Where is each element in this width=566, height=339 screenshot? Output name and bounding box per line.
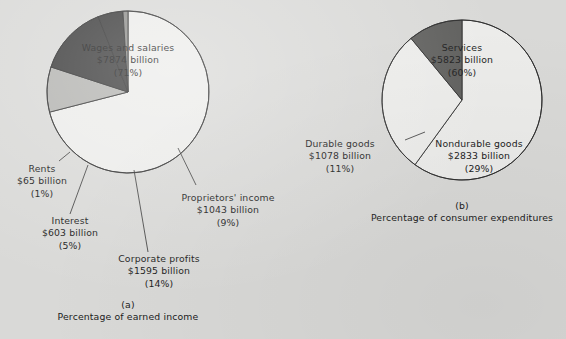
leader-line-corporate-profits xyxy=(134,170,148,252)
slice-label: Corporate profits xyxy=(101,253,217,265)
slice-percent: (29%) xyxy=(415,163,543,175)
slice-percent: (1%) xyxy=(2,188,82,200)
slice-value: $7874 billion xyxy=(69,54,187,66)
slice-percent: (14%) xyxy=(101,278,217,290)
slice-value: $1078 billion xyxy=(286,150,394,162)
caption-letter: (b) xyxy=(352,200,566,212)
slice-value: $5823 billion xyxy=(406,54,518,66)
slice-value: $2833 billion xyxy=(415,150,543,162)
pie-a-caption: (a) Percentage of earned income xyxy=(38,299,218,324)
slice-percent: (71%) xyxy=(69,67,187,79)
caption-text: Percentage of earned income xyxy=(38,311,218,323)
pie-b-caption: (b) Percentage of consumer expenditures xyxy=(352,200,566,225)
slice-label: Services xyxy=(406,42,518,54)
pie-b-label-durable-goods: Durable goods $1078 billion (11%) xyxy=(286,138,394,175)
slice-label: Proprietors' income xyxy=(165,192,291,204)
leader-line-proprietors-income xyxy=(178,148,196,185)
pie-a-label-wages-and-salaries: Wages and salaries $7874 billion (71%) xyxy=(69,42,187,79)
slice-label: Nondurable goods xyxy=(415,138,543,150)
slice-percent: (60%) xyxy=(406,67,518,79)
figure-two-pie-charts: Wages and salaries $7874 billion (71%) R… xyxy=(0,0,566,339)
slice-percent: (9%) xyxy=(165,217,291,229)
slice-label: Interest xyxy=(22,215,118,227)
slice-value: $1595 billion xyxy=(101,265,217,277)
pie-a-label-proprietors-income: Proprietors' income $1043 billion (9%) xyxy=(165,192,291,229)
pie-b-label-nondurable-goods: Nondurable goods $2833 billion (29%) xyxy=(415,138,543,175)
leader-line-rents xyxy=(59,152,70,161)
slice-value: $603 billion xyxy=(22,227,118,239)
pie-a-label-corporate-profits: Corporate profits $1595 billion (14%) xyxy=(101,253,217,290)
pie-a-label-interest: Interest $603 billion (5%) xyxy=(22,215,118,252)
slice-value: $1043 billion xyxy=(165,204,291,216)
pie-b-label-services: Services $5823 billion (60%) xyxy=(406,42,518,79)
slice-label: Durable goods xyxy=(286,138,394,150)
pie-a-label-rents: Rents $65 billion (1%) xyxy=(2,163,82,200)
pie-a-slices xyxy=(47,11,209,173)
slice-label: Wages and salaries xyxy=(69,42,187,54)
caption-text: Percentage of consumer expenditures xyxy=(352,212,566,224)
slice-percent: (11%) xyxy=(286,163,394,175)
slice-percent: (5%) xyxy=(22,240,118,252)
caption-letter: (a) xyxy=(38,299,218,311)
slice-value: $65 billion xyxy=(2,175,82,187)
slice-label: Rents xyxy=(2,163,82,175)
